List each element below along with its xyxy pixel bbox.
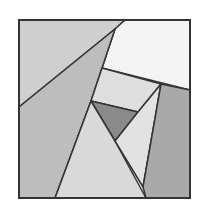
square-dissection-diagram <box>0 0 207 208</box>
